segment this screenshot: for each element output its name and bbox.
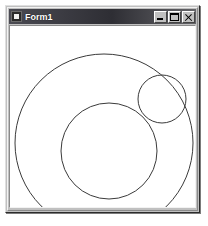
maximize-button[interactable] [168, 11, 181, 23]
circles-drawing [9, 25, 196, 208]
medium-circle [61, 103, 157, 199]
form-client-area[interactable] [9, 25, 196, 208]
maximize-icon [169, 12, 180, 22]
window-title: Form1 [25, 12, 154, 22]
vb-form-icon[interactable] [11, 11, 22, 22]
minimize-button[interactable] [154, 11, 167, 23]
minimize-icon [155, 12, 166, 22]
form-window: Form1 [5, 5, 200, 213]
caption-button-group [154, 11, 195, 23]
small-circle [138, 75, 186, 123]
title-bar[interactable]: Form1 [9, 9, 196, 24]
close-button[interactable] [182, 11, 195, 23]
large-circle [15, 54, 193, 208]
close-icon [183, 12, 194, 22]
